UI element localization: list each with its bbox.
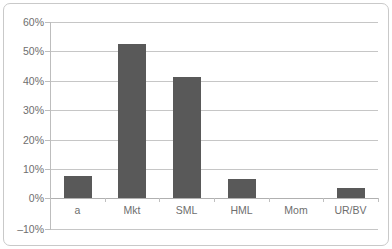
- category-separator-0: [50, 198, 51, 202]
- bar-a: [64, 176, 92, 198]
- chart-figure: 60% 50% 40% 30% 20% 10% 0% –10%: [0, 0, 392, 249]
- category-label-mkt: Mkt: [105, 203, 159, 217]
- ytick-label-wrap-40: 40%: [0, 75, 44, 87]
- category-separator-1: [105, 198, 106, 202]
- ytick-40: [45, 81, 50, 82]
- ytick-label-40: 40%: [0, 75, 44, 87]
- category-label-sml: SML: [159, 203, 214, 217]
- axis-bottom-line: [50, 229, 378, 230]
- category-separator-6: [378, 198, 379, 202]
- ytick-label-wrap-0: 0%: [0, 192, 44, 204]
- ytick-label-wrap-50: 50%: [0, 45, 44, 57]
- bar-mkt: [118, 44, 146, 198]
- gridline-60: [50, 22, 378, 23]
- ytick-label-0: 0%: [0, 192, 44, 204]
- ytick-label-wrap-neg10: –10%: [0, 223, 44, 235]
- ytick-50: [45, 51, 50, 52]
- category-label-hml: HML: [214, 203, 269, 217]
- gridline-20: [50, 140, 378, 141]
- ytick-label-60: 60%: [0, 16, 44, 28]
- ytick-60: [45, 22, 50, 23]
- category-separator-5: [323, 198, 324, 202]
- ytick-label-wrap-10: 10%: [0, 163, 44, 175]
- bar-hml: [228, 179, 256, 198]
- ytick-label-wrap-60: 60%: [0, 16, 44, 28]
- category-separator-4: [269, 198, 270, 202]
- ytick-label-wrap-30: 30%: [0, 104, 44, 116]
- category-label-a: a: [50, 203, 105, 217]
- bar-ur-bv: [337, 188, 365, 198]
- gridline-10: [50, 169, 378, 170]
- ytick-label-wrap-20: 20%: [0, 134, 44, 146]
- ytick-30: [45, 110, 50, 111]
- gridline-50: [50, 51, 378, 52]
- ytick-10: [45, 169, 50, 170]
- category-label-ur-bv: UR/BV: [323, 203, 378, 217]
- ytick-label-50: 50%: [0, 45, 44, 57]
- ytick-label-20: 20%: [0, 134, 44, 146]
- category-separator-2: [159, 198, 160, 202]
- category-label-mom: Mom: [269, 203, 323, 217]
- category-separator-3: [214, 198, 215, 202]
- plot-area: 60% 50% 40% 30% 20% 10% 0% –10%: [0, 0, 392, 249]
- ytick-label-neg10: –10%: [0, 223, 44, 235]
- gridline-40: [50, 81, 378, 82]
- ytick-label-10: 10%: [0, 163, 44, 175]
- ytick-neg10: [45, 229, 50, 230]
- gridline-30: [50, 110, 378, 111]
- ytick-20: [45, 140, 50, 141]
- bar-sml: [173, 77, 201, 198]
- ytick-label-30: 30%: [0, 104, 44, 116]
